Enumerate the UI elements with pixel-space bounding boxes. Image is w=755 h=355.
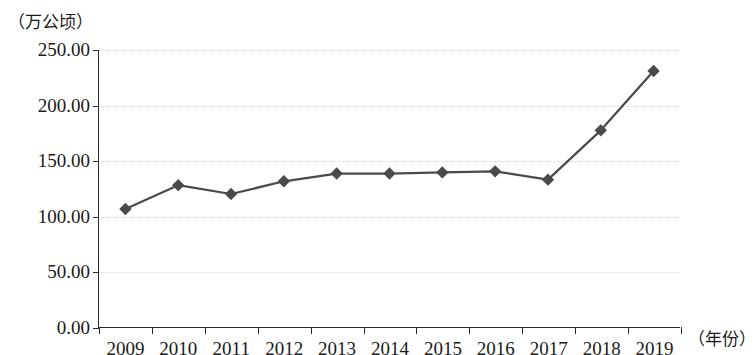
x-tick-mark <box>258 327 259 334</box>
y-tick-label: 150.00 <box>38 150 90 172</box>
data-point-marker <box>278 175 290 187</box>
x-tick-mark <box>469 327 470 334</box>
x-tick-mark <box>99 327 100 334</box>
x-tick-label: 2009 <box>106 338 144 355</box>
y-tick-label: 50.00 <box>47 261 90 283</box>
x-tick-label: 2014 <box>371 338 409 355</box>
plot-area: 0.0050.00100.00150.00200.00250.00 200920… <box>98 50 680 328</box>
x-tick-label: 2013 <box>318 338 356 355</box>
series-markers <box>119 65 660 215</box>
series-line <box>125 71 653 209</box>
data-point-marker <box>119 203 131 215</box>
x-tick-mark <box>681 327 682 334</box>
data-point-marker <box>172 179 184 191</box>
y-axis-unit-label: （万公顷） <box>8 8 93 33</box>
x-axis-unit-label: （年份） <box>688 325 755 350</box>
data-point-marker <box>330 167 342 179</box>
x-tick-mark <box>522 327 523 334</box>
data-point-marker <box>489 165 501 177</box>
y-tick-label: 100.00 <box>38 206 90 228</box>
line-chart: （万公顷） （年份） 0.0050.00100.00150.00200.0025… <box>0 0 755 355</box>
data-point-marker <box>436 166 448 178</box>
data-point-marker <box>225 188 237 200</box>
x-tick-label: 2018 <box>583 338 621 355</box>
y-tick-label: 0.00 <box>57 317 90 339</box>
y-tick-label: 200.00 <box>38 95 90 117</box>
data-series <box>99 50 680 327</box>
x-tick-mark <box>364 327 365 334</box>
x-tick-mark <box>205 327 206 334</box>
x-tick-label: 2017 <box>530 338 568 355</box>
x-tick-mark <box>152 327 153 334</box>
x-tick-label: 2015 <box>424 338 462 355</box>
x-tick-mark <box>311 327 312 334</box>
x-tick-mark <box>416 327 417 334</box>
x-tick-label: 2011 <box>213 338 250 355</box>
x-tick-mark <box>628 327 629 334</box>
x-tick-label: 2016 <box>477 338 515 355</box>
x-tick-mark <box>575 327 576 334</box>
x-tick-label: 2019 <box>636 338 674 355</box>
y-tick-label: 250.00 <box>38 39 90 61</box>
data-point-marker <box>383 167 395 179</box>
x-tick-label: 2010 <box>159 338 197 355</box>
x-tick-label: 2012 <box>265 338 303 355</box>
